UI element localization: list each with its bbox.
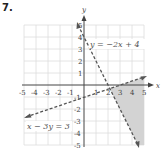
svg-text:-5: -5 <box>74 142 81 150</box>
svg-text:-2: -2 <box>55 89 62 97</box>
svg-text:-3: -3 <box>43 89 50 97</box>
svg-text:4: 4 <box>78 34 83 42</box>
svg-text:-4: -4 <box>74 130 81 138</box>
svg-text:5: 5 <box>142 89 146 97</box>
y-axis-arrow-icon <box>82 15 87 21</box>
line2-arrow-left-icon <box>24 114 32 119</box>
svg-text:-2: -2 <box>74 106 81 114</box>
svg-text:3: 3 <box>118 89 122 97</box>
line1-arrow-down-icon <box>135 141 140 148</box>
x-axis-arrow-icon <box>148 83 154 88</box>
svg-text:-3: -3 <box>74 118 81 126</box>
y-tick-labels: 5 4 3 2 1 -1 -2 -3 -4 -5 <box>74 22 83 150</box>
solution-region <box>110 77 144 145</box>
svg-text:2: 2 <box>78 58 82 66</box>
equation-label-2: x − 3y = 3 <box>27 122 70 131</box>
svg-text:3: 3 <box>78 46 82 54</box>
svg-text:4: 4 <box>130 89 135 97</box>
equation-label-1: y = −2x + 4 <box>89 40 140 49</box>
svg-text:1: 1 <box>78 70 82 78</box>
coordinate-graph: x y -5 -4 -3 -2 -1 1 2 3 4 5 5 4 3 2 1 -… <box>0 0 162 150</box>
x-axis-label: x <box>156 82 160 90</box>
svg-text:-4: -4 <box>31 89 38 97</box>
y-axis-label: y <box>81 6 87 14</box>
svg-text:-1: -1 <box>67 89 74 97</box>
svg-text:-5: -5 <box>19 89 26 97</box>
